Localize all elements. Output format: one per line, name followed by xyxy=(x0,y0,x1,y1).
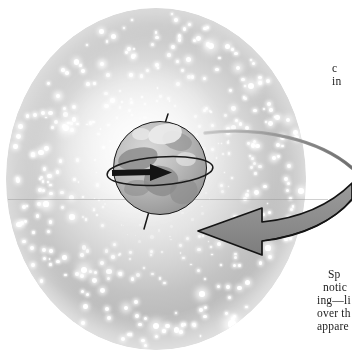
text-line: Sp xyxy=(317,268,351,281)
text-line: c xyxy=(332,62,341,75)
text-line: ing—li xyxy=(317,294,351,307)
text-line: in xyxy=(332,75,341,88)
planet-rotation-arrow xyxy=(112,164,172,181)
planet-rotation-indicator xyxy=(0,0,352,357)
figure-page: c in Sp notic ing—li over th appare xyxy=(0,0,352,357)
clipped-paragraph-top: c in xyxy=(332,62,341,88)
text-line: over th xyxy=(317,307,351,320)
text-line: appare xyxy=(317,320,351,333)
text-line: notic xyxy=(317,281,351,294)
clipped-paragraph-bottom: Sp notic ing—li over th appare xyxy=(317,268,351,333)
planet-group xyxy=(0,0,352,357)
